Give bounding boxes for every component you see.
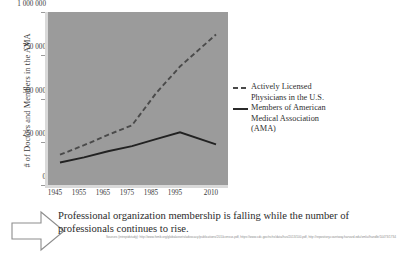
series-line-ama	[60, 132, 216, 162]
x-tick-label: 1945	[48, 189, 62, 197]
plot-lines	[48, 12, 228, 185]
legend-label: (AMA)	[251, 124, 276, 133]
caption-text: Professional organization membership is …	[58, 209, 396, 235]
y-tick-label: 1 000 000	[17, 0, 46, 8]
legend-item-ama-cont1: Medical Association	[233, 114, 395, 125]
legend-item-physicians-cont: Physicians in the U.S.	[233, 93, 395, 104]
legend-label: Medical Association	[251, 114, 319, 123]
caption-line-2: professionals continues to rise.	[58, 222, 396, 235]
legend-label: Physicians in the U.S.	[251, 93, 324, 102]
x-tick-label: 1995	[168, 189, 182, 197]
y-tick-label: 750 000	[23, 43, 46, 51]
legend-item-ama: Members of American	[233, 103, 395, 114]
y-tick-label: 500 000	[23, 87, 46, 95]
chart-legend: Actively Licensed Physicians in the U.S.…	[233, 82, 395, 135]
y-tick-label: 250 000	[23, 130, 46, 138]
x-tick-label: 2010	[204, 189, 218, 197]
x-axis-spine	[45, 185, 228, 188]
legend-item-physicians: Actively Licensed	[233, 82, 395, 93]
legend-label: Members of American	[251, 103, 326, 112]
sources-note: Sources (intrepidstudy): http://www.fsmb…	[80, 235, 396, 239]
legend-label: Actively Licensed	[251, 82, 312, 91]
x-axis-tick-labels: 1945 1955 1965 1975 1985 1995 2010	[0, 189, 250, 201]
chart-figure: # of Doctors and Members in the AMA 1 00…	[0, 0, 399, 200]
plot-area	[48, 12, 228, 185]
dashed-line-key-icon	[233, 87, 248, 89]
x-tick-label: 1975	[120, 189, 134, 197]
solid-line-key-icon	[233, 108, 248, 110]
x-tick-label: 1985	[144, 189, 158, 197]
x-tick-label: 1955	[72, 189, 86, 197]
caption-line-1: Professional organization membership is …	[58, 209, 396, 222]
legend-item-ama-cont2: (AMA)	[233, 124, 395, 135]
x-tick-label: 1965	[96, 189, 110, 197]
